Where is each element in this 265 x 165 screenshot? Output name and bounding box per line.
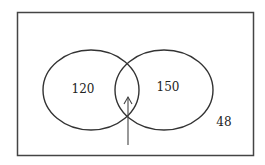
outside-value: 48: [216, 115, 231, 129]
universal-set-rectangle: [18, 13, 254, 156]
venn-diagram: 120 150 48: [0, 0, 265, 165]
left-only-value: 120: [72, 82, 95, 96]
right-only-value: 150: [157, 80, 180, 94]
